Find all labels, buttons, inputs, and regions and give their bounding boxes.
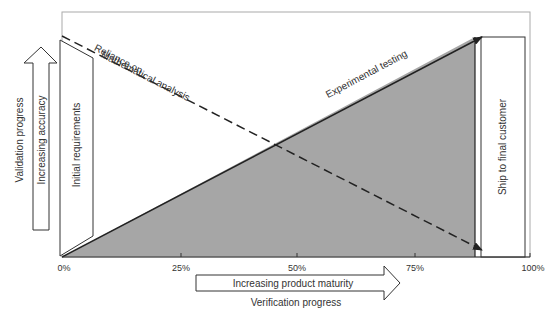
ship-label: Ship to final customer	[497, 98, 508, 195]
tick-75: 75%	[406, 263, 424, 273]
diagram-canvas: 0% 25% 50% 75% 100% Increasing product m…	[0, 0, 555, 321]
initial-requirements-label: Initial requirements	[71, 103, 82, 187]
accuracy-arrow-label: Increasing accuracy	[36, 96, 47, 185]
y-axis-title: Validation progress	[14, 98, 25, 183]
tick-25: 25%	[172, 263, 190, 273]
tick-50: 50%	[288, 263, 306, 273]
x-axis-title: Verification progress	[251, 297, 342, 308]
tick-0: 0%	[57, 263, 70, 273]
math-label-line2: Mathematical analysis	[99, 49, 192, 103]
tick-100: 100%	[521, 263, 544, 273]
maturity-arrow-label: Increasing product maturity	[233, 278, 354, 289]
